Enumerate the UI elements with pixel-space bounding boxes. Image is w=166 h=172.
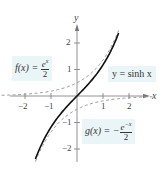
y-tick-label-2: 2 — [66, 38, 71, 47]
y-axis-label: y — [74, 13, 78, 23]
x-axis-label: x — [152, 91, 156, 101]
x-tick-label-neg2: −2 — [18, 102, 28, 111]
g-fraction: e−x2 — [120, 121, 133, 142]
sinh-graph — [0, 0, 166, 172]
g-lhs: g(x) = − — [85, 125, 120, 136]
g-function-label: g(x) = −e−x2 — [82, 119, 135, 144]
y-tick-label-neg2: −2 — [62, 144, 72, 153]
x-tick-label-1: 1 — [101, 102, 106, 111]
x-tick-label-2: 2 — [127, 102, 132, 111]
y-tick-label-1: 1 — [67, 65, 72, 74]
g-exp: −x — [125, 121, 132, 127]
x-tick-label-neg1: −1 — [44, 102, 54, 111]
sinh-label: y = sinh x — [108, 66, 156, 82]
f-fraction: ex2 — [41, 58, 50, 79]
y-axis-arrow-icon — [75, 24, 79, 31]
sinh-label-text: y = sinh x — [112, 68, 152, 79]
x-axis-arrow-icon — [143, 94, 150, 98]
f-den: 2 — [41, 70, 50, 79]
g-den: 2 — [120, 133, 133, 142]
f-exp: x — [46, 58, 49, 64]
f-function-label: f(x) = ex2 — [12, 56, 52, 81]
f-lhs: f(x) = — [15, 62, 41, 73]
y-tick-label-neg1: −1 — [62, 118, 72, 127]
